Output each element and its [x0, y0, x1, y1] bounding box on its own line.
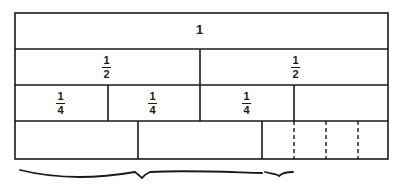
denominator: 2 [292, 69, 298, 80]
numerator: 1 [103, 55, 109, 66]
fraction-quarter-2: 1 4 [148, 91, 157, 116]
numerator: 1 [292, 55, 298, 66]
denominator: 4 [149, 105, 155, 116]
denominator: 4 [57, 105, 63, 116]
large-brace-icon [20, 170, 262, 178]
fraction-quarter-3: 1 4 [242, 91, 251, 116]
denominator: 4 [243, 105, 249, 116]
fraction-half-1: 1 2 [102, 55, 111, 80]
numerator: 1 [57, 91, 63, 102]
numerator: 1 [149, 91, 155, 102]
whole-label: 1 [196, 22, 203, 37]
small-brace-icon [265, 172, 293, 176]
numerator: 1 [243, 91, 249, 102]
fraction-quarter-1: 1 4 [56, 91, 65, 116]
denominator: 2 [103, 69, 109, 80]
fraction-half-2: 1 2 [291, 55, 300, 80]
